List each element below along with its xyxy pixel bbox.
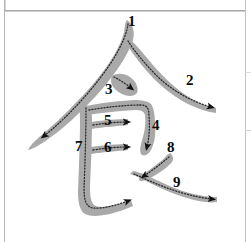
stroke-shapes xyxy=(28,20,217,216)
stroke-number-2: 2 xyxy=(186,73,194,88)
stroke-number-8: 8 xyxy=(167,140,175,155)
kanji-glyph-strokes xyxy=(0,0,251,242)
stroke-order-diagram: 1 2 3 4 5 6 7 8 9 xyxy=(0,0,251,242)
stroke-number-6: 6 xyxy=(104,140,112,155)
stroke-number-5: 5 xyxy=(104,113,112,128)
stroke-number-4: 4 xyxy=(152,118,160,133)
stroke-number-3: 3 xyxy=(105,82,113,97)
stroke-number-7: 7 xyxy=(75,139,83,154)
stroke-number-1: 1 xyxy=(128,14,136,29)
stroke-number-9: 9 xyxy=(173,175,181,190)
